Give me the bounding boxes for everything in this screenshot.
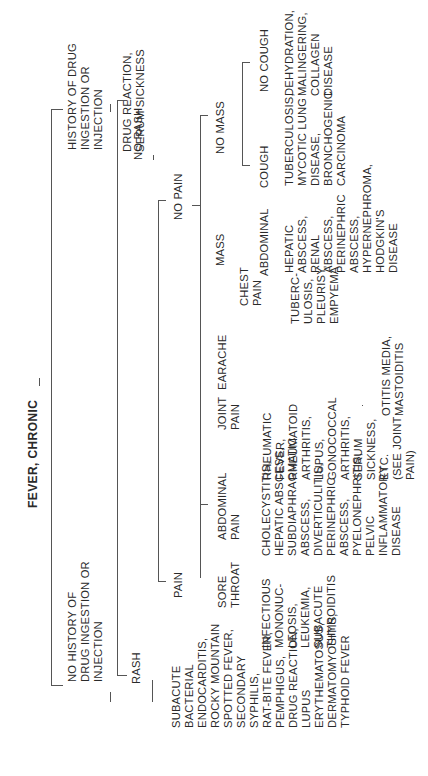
dx-sore-throat: INFECTIOUS MONONUC- LEOSIS, LEUKEMIA, SU…: [260, 575, 338, 648]
dx-no-cough: DEHYDRATION, MALINGERING, COLLAGEN DISEA…: [283, 10, 335, 96]
node-no-pain: NO PAIN: [172, 173, 185, 220]
connector: [152, 680, 153, 702]
connector: [110, 692, 111, 702]
connector: [158, 200, 166, 201]
connector: [242, 165, 250, 166]
dx-abdominal-pain: CHOLECYSTITIS, HEPATIC ABSCESS, SUBDIAPH…: [260, 437, 403, 556]
connector: [110, 104, 111, 112]
connector: [242, 62, 250, 63]
connector: [153, 155, 154, 160]
node-earache: EARACHE: [216, 335, 229, 391]
node-no-mass: NO MASS: [214, 101, 227, 154]
dx-chest-pain: TUBERC- ULOSIS, PLEURISY, EMPYEMA: [289, 265, 341, 324]
node-abdominal: ABDOMINAL: [258, 208, 271, 276]
node-no-cough: NO COUGH: [258, 29, 271, 92]
dx-abdominal-mass: HEPATIC ABSCESS, RENAL ABSCESS, PERINEPH…: [283, 164, 400, 273]
node-cough: COUGH: [258, 145, 271, 188]
connector: [51, 109, 63, 110]
connector: [200, 504, 208, 505]
node-history-of-drug: HISTORY OF DRUG INGESTION OR INJECTION: [66, 43, 105, 150]
connector: [51, 685, 63, 686]
node-abdominal-pain: ABDOMINAL PAIN: [216, 472, 242, 540]
connector: [200, 278, 201, 578]
node-no-history-of-drug: NO HISTORY OF DRUG INGESTION OR INJECTIO…: [66, 561, 105, 682]
node-joint-pain: JOINT PAIN: [216, 397, 242, 430]
connector: [39, 378, 40, 386]
decision-tree: FEVER, CHRONIC HISTORY OF DRUG INGESTION…: [0, 0, 428, 776]
node-rash: RASH: [130, 652, 143, 684]
connector: [158, 581, 166, 582]
connector: [158, 200, 159, 582]
root-node: FEVER, CHRONIC: [27, 400, 40, 508]
connector: [200, 115, 208, 116]
connector: [242, 62, 243, 166]
connector: [51, 110, 52, 686]
connector: [117, 100, 118, 676]
node-pain: PAIN: [172, 572, 185, 598]
connector: [117, 100, 127, 101]
node-sore-throat: SORE THROAT: [216, 562, 242, 608]
node-no-rash: NO RASH: [132, 108, 145, 160]
connector: [117, 675, 127, 676]
node-chest-pain: CHEST PAIN: [238, 267, 264, 306]
connector: [192, 205, 200, 206]
node-mass: MASS: [214, 233, 227, 266]
